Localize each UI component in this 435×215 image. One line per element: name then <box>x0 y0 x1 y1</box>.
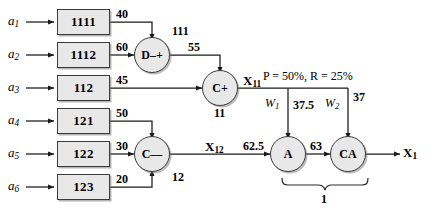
flow-label-30: 30 <box>116 139 128 154</box>
flow-label-40: 40 <box>116 7 128 22</box>
weight-label-w2: W2 <box>325 96 339 111</box>
flow-label-45: 45 <box>116 73 128 88</box>
flow-label-55: 55 <box>188 40 200 55</box>
node-caption-12: 12 <box>172 170 184 185</box>
flow-label-50: 50 <box>116 106 128 121</box>
input-label-a2: a2 <box>8 46 19 62</box>
flow-label-20: 20 <box>116 172 128 187</box>
input-label-a6: a6 <box>8 178 19 194</box>
flow-label-62-5: 62.5 <box>243 139 264 154</box>
group-brace <box>282 178 368 190</box>
node-circle-ca[interactable]: CA <box>330 136 366 172</box>
node-caption-111: 111 <box>172 24 189 39</box>
node-circle-cplus[interactable]: C+ <box>202 70 238 106</box>
input-label-a1: a1 <box>8 13 19 29</box>
brace-label: 1 <box>321 192 327 207</box>
node-box-1111[interactable]: 1111 <box>57 9 110 35</box>
node-box-123[interactable]: 123 <box>57 174 110 200</box>
weight-value-37-5: 37.5 <box>293 98 314 113</box>
input-label-a5: a5 <box>8 145 19 161</box>
node-circle-d[interactable]: D–+ <box>134 37 170 73</box>
weight-value-37: 37 <box>353 90 365 105</box>
input-label-a4: a4 <box>8 112 19 128</box>
flow-label-63: 63 <box>310 139 322 154</box>
diagram-canvas: a1 a2 a3 a4 a5 a6 1111 1112 112 121 122 … <box>0 0 435 215</box>
node-caption-11: 11 <box>214 106 225 121</box>
variable-label-x11: X11 <box>243 73 261 89</box>
node-circle-cminus[interactable]: C–– <box>134 136 170 172</box>
node-box-1112[interactable]: 1112 <box>57 42 110 68</box>
node-box-122[interactable]: 122 <box>57 141 110 167</box>
node-box-112[interactable]: 112 <box>57 75 110 101</box>
input-label-a3: a3 <box>8 79 19 95</box>
output-label-x1: X1 <box>403 145 417 161</box>
flow-label-60: 60 <box>116 40 128 55</box>
node-box-121[interactable]: 121 <box>57 108 110 134</box>
variable-label-x12: X12 <box>205 139 224 155</box>
weight-label-w1: W1 <box>265 96 279 111</box>
annotation-pr: P = 50%, R = 25% <box>263 69 353 84</box>
node-circle-a[interactable]: A <box>270 136 306 172</box>
